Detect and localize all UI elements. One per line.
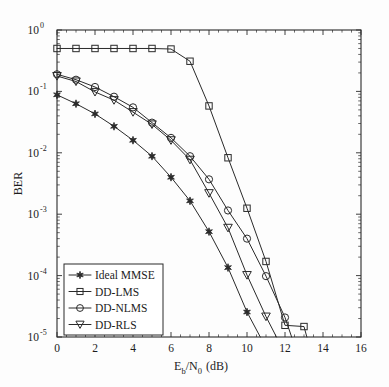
x-tick-label: 12 [279,342,291,354]
y-tick-label: 10 [28,270,40,282]
x-tick-label: 16 [355,342,367,354]
y-tick-label: 10 [28,147,40,159]
x-tick-label: 14 [317,342,329,354]
legend-label: Ideal MMSE [95,269,155,281]
legend-label: DD-LMS [95,286,139,298]
y-tick-exponent: -2 [40,144,47,153]
x-tick-label: 0 [54,342,60,354]
y-tick-exponent: -1 [40,82,47,91]
y-tick-label: 10 [28,85,40,97]
x-tick-label: 10 [241,342,253,354]
marker-star [244,308,251,316]
y-axis-title: BER [11,172,25,195]
marker-star [225,264,232,272]
y-tick-exponent: -4 [40,267,47,276]
ber-performance-chart: 024681012141610010-110-210-310-410-5Eb/N… [0,0,389,387]
x-tick-label: 2 [92,342,98,354]
x-axis-title: Eb/N0 (dB) [174,359,228,376]
marker-star [73,100,80,108]
chart-canvas: 024681012141610010-110-210-310-410-5Eb/N… [0,0,389,387]
legend: Ideal MMSEDD-LMSDD-NLMSDD-RLS [64,264,163,335]
y-tick-label: 10 [28,208,40,220]
y-tick-exponent: -5 [40,328,47,337]
y-tick-label: 10 [28,24,40,36]
x-tick-label: 8 [206,342,212,354]
x-tick-label: 6 [168,342,174,354]
x-tick-label: 4 [130,342,136,354]
y-tick-exponent: 0 [40,21,44,30]
marker-star [206,228,213,236]
marker-star [111,122,118,130]
marker-star [92,110,99,118]
legend-label: DD-NLMS [95,302,147,314]
y-tick-exponent: -3 [40,205,47,214]
y-tick-label: 10 [28,331,40,343]
marker-star [130,136,137,144]
legend-label: DD-RLS [95,319,137,331]
